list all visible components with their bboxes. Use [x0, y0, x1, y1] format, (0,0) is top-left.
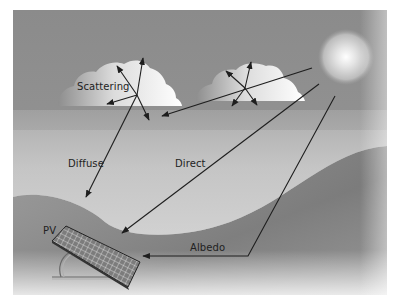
label-direct: Direct: [175, 158, 206, 169]
label-pv: PV: [43, 225, 56, 236]
diagram-canvas: Scattering Diffuse Direct Albedo PV: [0, 0, 399, 306]
label-scattering: Scattering: [77, 81, 130, 92]
label-diffuse: Diffuse: [68, 158, 104, 169]
label-albedo: Albedo: [190, 242, 225, 253]
